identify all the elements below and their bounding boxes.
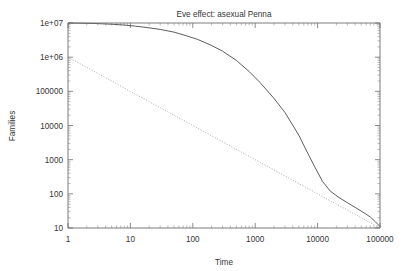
y-tick-label: 10 bbox=[54, 224, 64, 233]
x-tick-label: 100 bbox=[186, 235, 200, 244]
chart-figure: Eve effect: asexual Penna Time Families … bbox=[0, 0, 405, 271]
plot-canvas: Eve effect: asexual Penna Time Families … bbox=[0, 0, 405, 271]
x-tick-label: 10000 bbox=[306, 235, 329, 244]
y-tick-label: 100000 bbox=[36, 87, 64, 96]
y-tick-label: 1000 bbox=[45, 156, 64, 165]
chart-title: Eve effect: asexual Penna bbox=[177, 10, 272, 19]
y-tick-label: 10000 bbox=[40, 122, 63, 131]
x-tick-label: 100000 bbox=[366, 235, 394, 244]
y-tick-label: 1e+07 bbox=[40, 19, 63, 28]
x-axis-label: Time bbox=[215, 258, 233, 267]
x-tick-label: 10 bbox=[126, 235, 136, 244]
y-tick-label: 100 bbox=[49, 190, 63, 199]
plot-background bbox=[68, 23, 380, 228]
x-tick-label: 1 bbox=[66, 235, 71, 244]
y-tick-label: 1e+06 bbox=[40, 53, 63, 62]
y-axis-label: Families bbox=[8, 111, 17, 141]
x-tick-label: 1000 bbox=[246, 235, 265, 244]
